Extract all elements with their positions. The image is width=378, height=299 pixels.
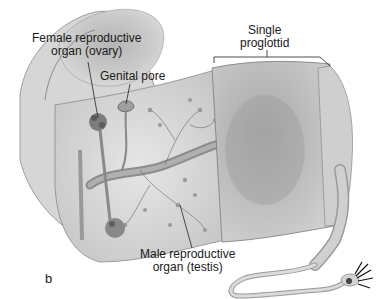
panel-letter: b [45,271,52,286]
genital-pore-label: Genital pore [100,70,165,83]
tapeworm-diagram: Female reproductive organ (ovary) Genita… [0,0,378,299]
scolex [341,262,373,288]
proglottid-label-line2: proglottid [240,37,289,50]
ovary-label-line2: organ (ovary) [32,45,141,58]
testis-label: Male reproductive organ (testis) [140,248,235,274]
ovary-label: Female reproductive organ (ovary) [32,32,141,58]
proglottid-label: Single proglottid [240,24,289,50]
testis-label-line2: organ (testis) [140,261,235,274]
